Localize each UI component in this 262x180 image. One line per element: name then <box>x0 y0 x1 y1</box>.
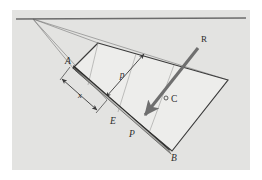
label-c: C <box>171 94 177 104</box>
label-x-dimension: x <box>77 90 82 100</box>
figure-root: A B C E P R p x <box>0 0 262 180</box>
label-p-point: P <box>128 129 135 139</box>
perspective-diagram: A B C E P R p x <box>0 0 262 180</box>
label-e: E <box>109 116 116 126</box>
label-a: A <box>64 56 71 66</box>
label-b: B <box>171 153 177 163</box>
label-p-dimension: p <box>119 70 125 80</box>
horizon-line <box>16 18 246 19</box>
label-r: R <box>201 34 207 44</box>
